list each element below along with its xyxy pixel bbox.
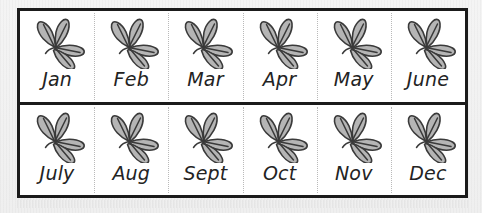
leaf-sprig-icon [321, 111, 387, 163]
month-cell-jan[interactable]: Jan [20, 11, 94, 102]
leaf-sprig-icon [172, 111, 238, 163]
month-cell-apr[interactable]: Apr [243, 11, 317, 102]
leaf-sprig-icon [321, 17, 387, 69]
month-cell-june[interactable]: June [391, 11, 465, 102]
month-label: Oct [263, 164, 296, 183]
month-row-first-half: Jan [20, 11, 465, 105]
page-root: Jan [0, 0, 482, 213]
leaf-sprig-icon [98, 17, 164, 69]
month-label: Nov [335, 164, 373, 183]
month-label: May [334, 70, 374, 89]
month-cell-nov[interactable]: Nov [317, 105, 391, 196]
month-label: Apr [263, 70, 296, 89]
leaf-sprig-icon [24, 111, 90, 163]
leaf-sprig-icon [98, 111, 164, 163]
month-label: Sept [183, 164, 227, 183]
month-cell-aug[interactable]: Aug [94, 105, 168, 196]
month-cell-mar[interactable]: Mar [168, 11, 242, 102]
month-label: Feb [114, 70, 149, 89]
month-label: Dec [409, 164, 446, 183]
month-label: Jan [42, 70, 72, 89]
page-shadow-strip [17, 200, 468, 208]
month-cell-may[interactable]: May [317, 11, 391, 102]
month-label: July [40, 164, 75, 183]
month-cell-sept[interactable]: Sept [168, 105, 242, 196]
leaf-sprig-icon [395, 111, 461, 163]
leaf-sprig-icon [247, 111, 313, 163]
leaf-sprig-icon [172, 17, 238, 69]
month-label: Mar [187, 70, 223, 89]
month-cell-july[interactable]: July [20, 105, 94, 196]
month-row-second-half: July [20, 105, 465, 196]
month-calendar-frame: Jan [17, 8, 468, 198]
month-label: June [407, 70, 449, 89]
leaf-sprig-icon [247, 17, 313, 69]
month-label: Aug [112, 164, 150, 183]
leaf-sprig-icon [395, 17, 461, 69]
month-cell-dec[interactable]: Dec [391, 105, 465, 196]
month-cell-oct[interactable]: Oct [243, 105, 317, 196]
leaf-sprig-icon [24, 17, 90, 69]
month-cell-feb[interactable]: Feb [94, 11, 168, 102]
